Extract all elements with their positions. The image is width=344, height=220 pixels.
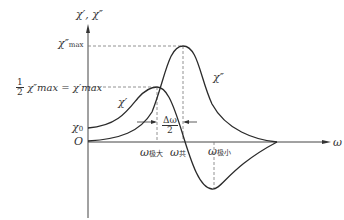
chi-double-prime-curve (88, 46, 277, 142)
omega-min-label: ω极小 (208, 146, 231, 157)
y-axis-label: χ′, χ″ (76, 9, 103, 20)
diagram-canvas (0, 0, 344, 220)
chi0-label: χ0 (72, 122, 83, 133)
omega-max-label: ω极大 (140, 147, 163, 158)
chi-max-label: χ″max (58, 38, 84, 49)
chi-prime-curve-label: χ′ (118, 97, 127, 108)
chi-prime-curve (88, 87, 277, 189)
origin-label: O (74, 136, 83, 147)
x-axis-arrow-icon (322, 140, 331, 144)
y-axis-arrow-icon (86, 24, 90, 33)
resonance-diagram: χ′, χ″ χ″max 12 χ″max = χ′max χ0 O χ′ χ″… (0, 0, 344, 220)
omega-res-label: ω共 (170, 147, 186, 158)
delta-omega-label: Δω2 (162, 116, 178, 135)
half-max-label: 12 χ″max = χ′max (16, 78, 102, 97)
chi-double-prime-curve-label: χ″ (213, 72, 224, 83)
x-axis-label: ω (333, 137, 342, 148)
